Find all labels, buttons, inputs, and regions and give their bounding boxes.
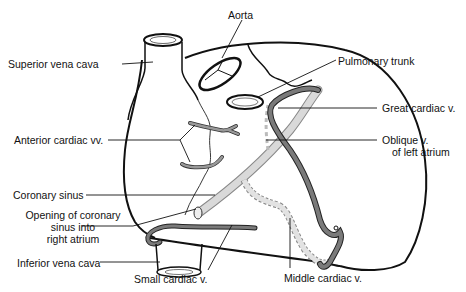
middle-cardiac-vein [244,180,330,263]
label-middle-cardiac-vein: Middle cardiac v. [284,272,362,284]
label-oblique-vein-line2: of left atrium [392,146,450,158]
label-opening-line1: Opening of coronary [18,209,128,221]
label-anterior-cardiac-veins: Anterior cardiac vv. [14,134,103,146]
label-small-cardiac-vein: Small cardiac v. [134,273,207,285]
label-superior-vena-cava: Superior vena cava [8,58,98,70]
sulcus-line [185,100,211,215]
label-aorta: Aorta [228,9,253,21]
aorta-opening [195,52,246,96]
heart-veins-diagram: Aorta Superior vena cava Pulmonary trunk… [0,0,466,292]
inferior-vena-cava [156,244,202,270]
heart-inferior-border [150,238,340,266]
left-atrium-edge [248,45,312,86]
label-opening-line2: sinus into [18,221,128,233]
label-oblique-vein-line1: Oblique v. [382,134,429,146]
label-opening-line3: right atrium [18,233,128,245]
label-inferior-vena-cava: Inferior vena cava [17,257,100,269]
label-coronary-sinus: Coronary sinus [13,189,84,201]
label-pulmonary-trunk: Pulmonary trunk [338,55,414,67]
label-great-cardiac-vein: Great cardiac v. [382,102,455,114]
